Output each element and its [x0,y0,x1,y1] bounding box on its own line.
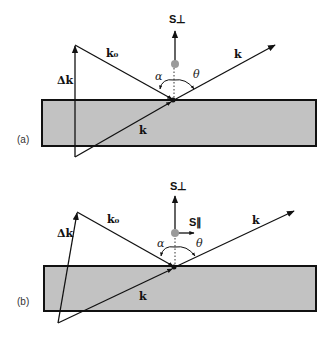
spin-dot [171,229,179,237]
theta-label: θ [193,68,200,81]
k-scattered-label: k [234,48,242,61]
k0-label: k₀ [106,47,119,60]
scattering-diagram: S⊥ k₀ k Δk k α θ (a) S⊥ S∥ k₀ k [0,0,332,337]
k-inner-label: k [139,290,147,303]
panel-b: S⊥ S∥ k₀ k Δk k α θ (b) [17,180,316,323]
alpha-label: α [157,237,165,250]
delta-k-label: Δk [57,74,74,87]
delta-k-label: Δk [57,227,74,240]
contact-point [172,265,177,270]
theta-arc [175,247,195,256]
contact-point [171,98,176,103]
alpha-label: α [155,70,163,83]
panel-a-label: (a) [17,134,29,145]
theta-arc [174,80,194,89]
theta-label: θ [196,237,203,250]
s-perp-label: S⊥ [170,180,187,192]
s-perp-label: S⊥ [169,13,186,25]
panel-b-label: (b) [17,296,29,307]
k-inner-label: k [139,124,147,137]
k-scattered-arrow [174,45,275,100]
panel-a: S⊥ k₀ k Δk k α θ (a) [17,13,316,157]
k-scattered-label: k [252,214,260,227]
spin-dot [171,60,179,68]
sample-slab [44,266,316,311]
k0-label: k₀ [107,213,120,226]
s-par-label: S∥ [189,216,202,229]
sample-slab [42,100,316,146]
